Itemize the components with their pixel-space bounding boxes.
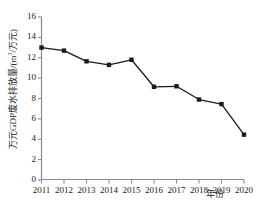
y-axis-title-suffix: /万元) bbox=[8, 29, 18, 53]
y-axis-title: 万元GDP废水排放量/(m3/万元) bbox=[8, 9, 18, 169]
data-point-marker bbox=[242, 132, 246, 136]
line-chart-plot bbox=[0, 0, 259, 207]
y-axis-title-prefix: 万元GDP废水排放量/(m bbox=[8, 56, 18, 150]
data-point-marker bbox=[219, 102, 223, 106]
data-point-markers bbox=[39, 45, 246, 137]
x-axis-title: 年份 bbox=[206, 190, 224, 199]
data-point-marker bbox=[152, 85, 156, 89]
data-point-marker bbox=[129, 58, 133, 62]
data-point-marker bbox=[174, 84, 178, 88]
x-axis-tick-label: 2020 bbox=[230, 186, 258, 195]
data-point-marker bbox=[107, 63, 111, 67]
data-point-marker bbox=[197, 97, 201, 101]
x-axis-ticks bbox=[42, 180, 245, 184]
data-point-marker bbox=[39, 45, 43, 49]
chart-container: 0246810121416 20112012201320142015201620… bbox=[0, 0, 259, 207]
data-series-line bbox=[42, 48, 245, 135]
chart-axes bbox=[42, 17, 245, 180]
data-point-marker bbox=[84, 59, 88, 63]
y-axis-title-superscript: 3 bbox=[7, 53, 13, 56]
data-point-marker bbox=[62, 48, 66, 52]
y-axis-tick-label: 0 bbox=[14, 175, 36, 184]
